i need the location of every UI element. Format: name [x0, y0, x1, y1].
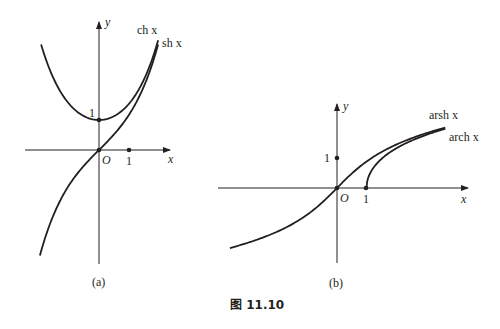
point-y1-b — [335, 156, 340, 161]
tick-x1-b: 1 — [363, 193, 369, 205]
cosh-curve — [41, 40, 158, 120]
curve-label-arsh: arsh x — [429, 109, 458, 121]
origin-label-a: O — [102, 154, 111, 166]
curve-label-arch: arch x — [449, 131, 479, 143]
tick-x1-a: 1 — [126, 155, 132, 167]
x-axis-label-b: x — [461, 193, 466, 205]
point-y1-a — [97, 118, 102, 123]
origin-point-a — [97, 148, 102, 153]
panel-label-a: (a) — [92, 276, 105, 288]
figure-caption: 图 11.10 — [230, 299, 284, 311]
arcosh-curve — [367, 129, 446, 188]
figure-canvas — [0, 0, 500, 329]
curve-label-ch: ch x — [137, 24, 157, 36]
point-x1-a — [127, 148, 132, 153]
x-axis-label-a: x — [168, 153, 173, 165]
origin-label-b: O — [340, 192, 349, 204]
y-axis-label-b: y — [343, 100, 348, 112]
panel-label-b: (b) — [329, 277, 343, 289]
origin-point-b — [335, 186, 340, 191]
y-axis-label-a: y — [105, 16, 110, 28]
point-x1-b — [364, 186, 369, 191]
panel-a — [25, 22, 170, 264]
curve-label-sh: sh x — [162, 37, 182, 49]
panel-b — [218, 104, 468, 263]
tick-y1-a: 1 — [89, 107, 95, 119]
tick-y1-b: 1 — [324, 152, 330, 164]
